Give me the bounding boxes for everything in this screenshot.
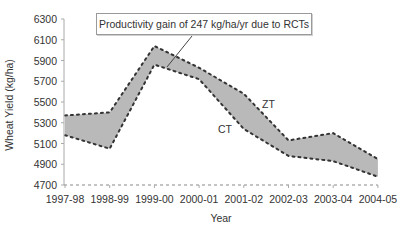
- y-tick-label: 5900: [34, 55, 58, 67]
- x-axis: 1997-981998-991999-002000-012001-022002-…: [46, 185, 398, 205]
- wheat-yield-chart: 470049005100530055005700590061006300 199…: [0, 0, 413, 235]
- x-axis-title: Year: [210, 212, 232, 224]
- x-tick-label: 2004-05: [359, 193, 398, 205]
- y-tick-label: 4900: [34, 158, 58, 170]
- x-tick-label: 2000-01: [180, 193, 219, 205]
- x-tick-label: 1998-99: [90, 193, 129, 205]
- band-area: [65, 46, 378, 177]
- y-tick-label: 6100: [34, 34, 58, 46]
- series-label-zt: ZT: [262, 98, 275, 110]
- y-tick-label: 5500: [34, 96, 58, 108]
- productivity-gain-band: [65, 46, 378, 177]
- x-tick-label: 1999-00: [135, 193, 174, 205]
- y-tick-label: 5100: [34, 138, 58, 150]
- annotation-callout: Productivity gain of 247 kg/ha/yr due to…: [96, 13, 312, 35]
- y-axis-title: Wheat Yield (kg/ha): [3, 59, 15, 151]
- x-tick-label: 2002-03: [269, 193, 308, 205]
- x-tick-label: 2001-02: [225, 193, 264, 205]
- series-label-ct: CT: [218, 123, 233, 135]
- x-tick-label: 1997-98: [46, 193, 85, 205]
- y-axis: 470049005100530055005700590061006300: [34, 13, 64, 191]
- y-tick-label: 5700: [34, 75, 58, 87]
- x-tick-label: 2003-04: [314, 193, 353, 205]
- y-tick-label: 6300: [34, 13, 58, 25]
- y-tick-label: 5300: [34, 117, 58, 129]
- y-tick-label: 4700: [34, 179, 58, 191]
